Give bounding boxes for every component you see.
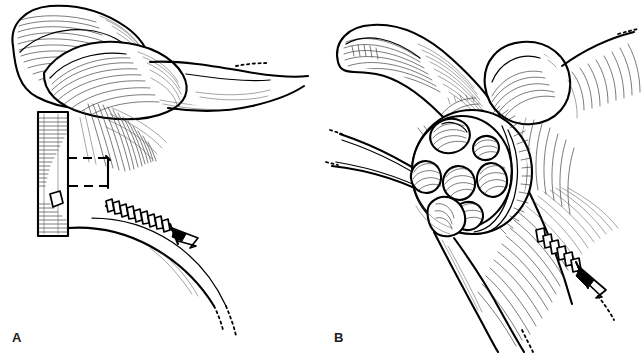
reamer-head [408,106,532,236]
panel-a: A [0,0,322,354]
inferior-bone-border [68,218,236,336]
humeral-head [485,42,571,124]
panel-a-illustration [0,0,322,354]
figure-root: A [0,0,644,354]
bone-screw-b [536,228,614,320]
panel-label-b: B [334,331,344,344]
bone-screw [106,199,198,248]
reamer-shaft-stub [427,197,465,237]
clavicle-bone [44,42,187,120]
screw-threads [106,199,170,232]
panel-b-illustration [322,0,644,354]
bone-block [38,112,68,236]
screw-threads-b [536,228,581,272]
panel-b: B [322,0,644,354]
accent-strokes [150,248,198,296]
panel-label-a: A [12,331,22,344]
inferior-border-b [434,232,498,352]
lateral-tissue-hatching [562,29,640,118]
